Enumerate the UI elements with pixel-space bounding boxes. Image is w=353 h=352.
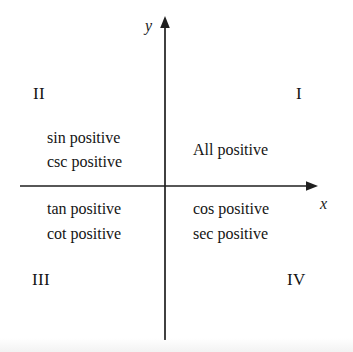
quadrant-numeral-iv: IV [287,271,306,288]
quadrant-numeral-i: I [296,85,302,102]
quadrant-iv-line-1: cos positive [193,197,269,220]
quadrant-i-line-1: All positive [193,138,268,161]
quadrant-ii-line-1: sin positive [47,126,120,149]
quadrant-iii-line-2: cot positive [47,222,121,245]
y-axis-label: y [145,18,152,34]
quadrant-iii-line-1: tan positive [47,197,121,220]
x-axis-arrowhead-icon [306,181,318,191]
quadrant-ii-line-2: csc positive [47,150,122,173]
y-axis-arrowhead-icon [160,16,170,28]
quadrant-numeral-iii: III [32,271,50,288]
quadrant-iv-line-2: sec positive [193,222,268,245]
trig-quadrant-diagram: y x II sin positive csc positive I All p… [0,0,353,352]
quadrant-numeral-ii: II [33,85,45,102]
coordinate-axes [0,0,353,352]
x-axis-label: x [320,196,327,212]
